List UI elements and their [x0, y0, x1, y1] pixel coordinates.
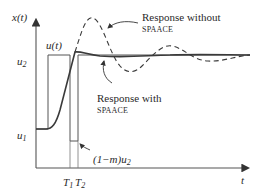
without-spaace-line2: SPAACE	[142, 26, 173, 34]
level-u2-label: u2	[17, 56, 27, 69]
level-u1-label: u1	[17, 130, 27, 143]
dip-level-label: (1−m)u2	[93, 154, 131, 167]
t1-label: T1	[63, 177, 73, 190]
with-spaace-line1: Response with	[97, 93, 161, 104]
with-spaace-line2: SPAACE	[97, 107, 128, 115]
response-with-spaace-curve	[36, 52, 250, 129]
arrow-dip-level	[80, 144, 90, 150]
arrow-without-spaace	[108, 22, 138, 28]
t2-label: T2	[75, 177, 85, 190]
signal-ut-label: u(t)	[46, 40, 62, 51]
y-axis-label: x(t)	[12, 12, 27, 23]
x-axis-label: t	[241, 175, 244, 186]
without-spaace-line1: Response without	[142, 12, 221, 23]
arrow-with-spaace	[103, 61, 112, 83]
